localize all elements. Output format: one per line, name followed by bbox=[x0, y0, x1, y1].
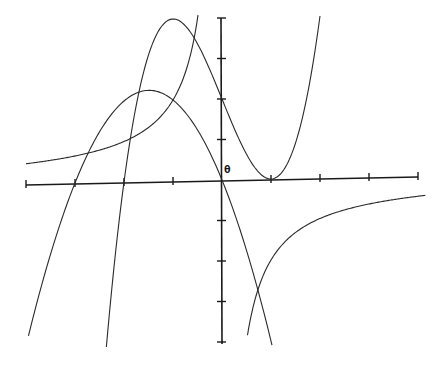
function-plot bbox=[0, 0, 444, 365]
curve-hyperbola-right bbox=[247, 195, 425, 335]
curve-hyperbola-left bbox=[26, 15, 198, 164]
origin-label: θ bbox=[224, 163, 231, 176]
curve-parabola bbox=[28, 90, 272, 345]
